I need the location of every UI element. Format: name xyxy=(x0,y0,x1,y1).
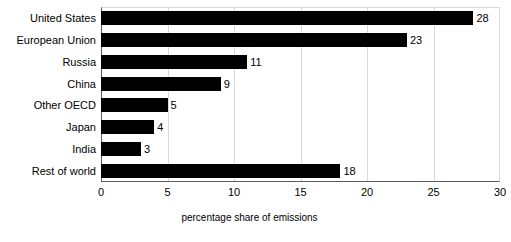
category-label: Rest of world xyxy=(0,165,96,177)
x-axis-tick-labels: 051015202530 xyxy=(0,185,511,201)
bar xyxy=(101,164,340,178)
bar-value-label: 3 xyxy=(144,142,150,156)
x-axis-title: percentage share of emissions xyxy=(0,211,511,224)
category-label: Russia xyxy=(0,56,96,68)
bar xyxy=(101,98,168,112)
x-tick-label: 15 xyxy=(294,185,306,199)
bar xyxy=(101,55,247,69)
bar-value-label: 18 xyxy=(343,164,355,178)
bar-value-label: 4 xyxy=(157,120,163,134)
bar xyxy=(101,77,221,91)
bar xyxy=(101,142,141,156)
bar xyxy=(101,120,154,134)
bar-value-label: 5 xyxy=(171,98,177,112)
bar-value-label: 28 xyxy=(476,11,488,25)
x-tick-label: 25 xyxy=(427,185,439,199)
x-tick-label: 10 xyxy=(228,185,240,199)
bar-chart: United StatesEuropean UnionRussiaChinaOt… xyxy=(0,0,511,242)
x-tick-label: 30 xyxy=(494,185,506,199)
category-label: United States xyxy=(0,12,96,24)
category-label: China xyxy=(0,78,96,90)
category-label: European Union xyxy=(0,34,96,46)
gridline xyxy=(434,8,435,181)
x-axis-title-text: percentage share of emissions xyxy=(181,211,317,224)
bar xyxy=(101,11,473,25)
bar xyxy=(101,33,407,47)
category-axis: United StatesEuropean UnionRussiaChinaOt… xyxy=(0,7,96,182)
category-label: Other OECD xyxy=(0,99,96,111)
x-tick-label: 5 xyxy=(164,185,170,199)
bar-value-label: 9 xyxy=(224,77,230,91)
x-tick-label: 20 xyxy=(361,185,373,199)
bar-value-label: 23 xyxy=(410,33,422,47)
category-label: India xyxy=(0,143,96,155)
category-label: Japan xyxy=(0,121,96,133)
bar-value-label: 11 xyxy=(250,55,261,69)
x-tick-label: 0 xyxy=(98,185,104,199)
